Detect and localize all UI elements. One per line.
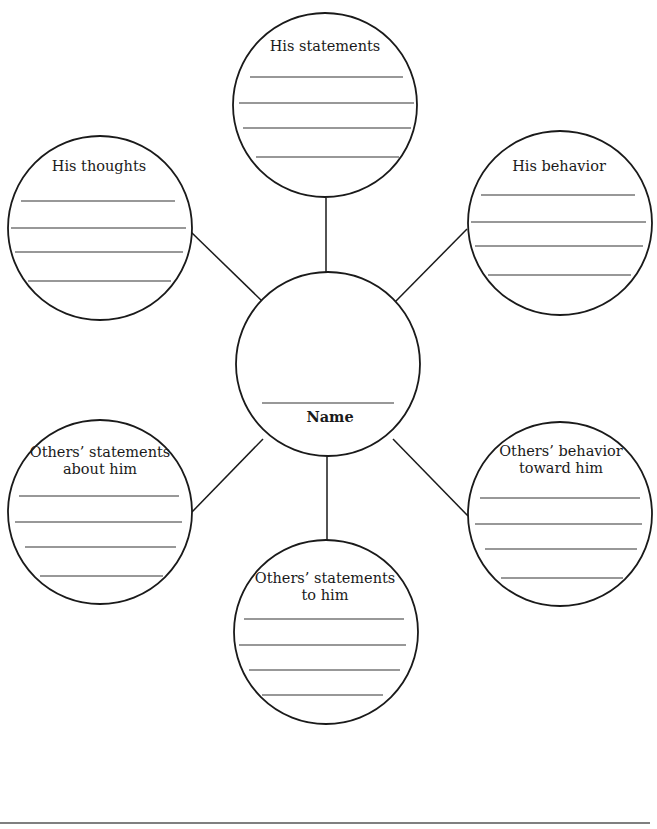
name-label: Name bbox=[306, 408, 353, 425]
node-label: toward him bbox=[519, 460, 603, 476]
node-label: His thoughts bbox=[52, 158, 146, 174]
circle-others-statements-to-him bbox=[234, 540, 418, 724]
node-center-name: Name bbox=[236, 272, 420, 456]
character-web-diagram: His statements His thoughts His behavior… bbox=[0, 0, 657, 829]
node-others-statements-to-him: Others’ statements to him bbox=[234, 540, 418, 724]
node-others-statements-about-him: Others’ statements about him bbox=[8, 420, 192, 604]
node-label: Others’ statements bbox=[30, 444, 170, 460]
node-label: Others’ statements bbox=[255, 570, 395, 586]
node-label: His behavior bbox=[512, 158, 606, 174]
node-his-behavior: His behavior bbox=[468, 131, 652, 315]
node-his-thoughts: His thoughts bbox=[8, 136, 192, 320]
connector-his-thoughts bbox=[191, 232, 262, 301]
circle-center bbox=[236, 272, 420, 456]
connector-his-behavior bbox=[395, 229, 467, 302]
node-label: about him bbox=[63, 461, 137, 477]
connector-others-behavior-toward-him bbox=[393, 439, 468, 516]
node-label: Others’ behavior bbox=[499, 443, 623, 459]
node-label: His statements bbox=[270, 38, 381, 54]
connector-others-statements-about-him bbox=[192, 439, 263, 512]
node-his-statements: His statements bbox=[233, 13, 417, 197]
node-label: to him bbox=[302, 587, 349, 603]
node-others-behavior-toward-him: Others’ behavior toward him bbox=[468, 422, 652, 606]
